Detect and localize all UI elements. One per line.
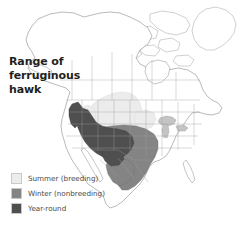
- legend-swatch-year-round: [11, 203, 22, 214]
- map-legend: Summer (breeding) Winter (nonbreeding) Y…: [11, 171, 151, 216]
- title-line-2: ferruginous: [9, 69, 105, 83]
- title-line-1: Range of: [9, 55, 105, 69]
- legend-label-year-round: Year-round: [28, 203, 66, 214]
- title-line-3: hawk: [9, 83, 105, 97]
- legend-swatch-winter: [11, 188, 22, 199]
- legend-item-year-round: Year-round: [11, 201, 151, 216]
- greenland-outline: [192, 7, 236, 50]
- arctic-island-small-5: [173, 55, 194, 66]
- range-map-figure: Range of ferruginous hawk Summer (breedi…: [0, 0, 250, 229]
- legend-label-summer: Summer (breeding): [28, 173, 98, 184]
- florida-peninsula: [183, 160, 195, 183]
- legend-item-summer: Summer (breeding): [11, 171, 151, 186]
- arctic-island-small-3: [158, 38, 180, 52]
- legend-swatch-summer: [11, 173, 22, 184]
- page-title: Range of ferruginous hawk: [9, 55, 105, 97]
- legend-item-winter: Winter (nonbreeding): [11, 186, 151, 201]
- legend-label-winter: Winter (nonbreeding): [28, 188, 105, 199]
